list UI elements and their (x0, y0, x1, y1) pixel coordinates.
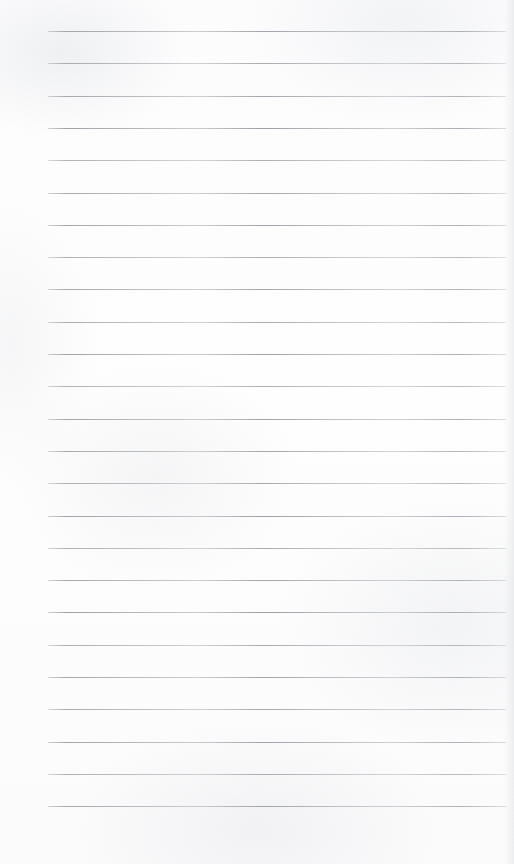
lined-paper-page (0, 0, 514, 864)
writing-area[interactable] (48, 0, 506, 864)
